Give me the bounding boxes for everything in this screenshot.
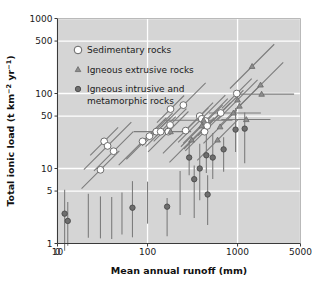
y-tick-label-100: 100 [35, 89, 52, 99]
x-tick-label-10: 10 [52, 247, 64, 257]
scatter-plot: 151050100500100001010010005000 Sedimenta… [0, 0, 322, 291]
x-tick-label-1000: 1000 [226, 247, 249, 257]
legend-label-1: Igneous extrusive rocks [87, 65, 194, 75]
y-tick-label-5: 5 [47, 186, 53, 196]
legend-label-0: Sedimentary rocks [87, 45, 172, 55]
legend-label-2: Igneous intrusive and [87, 84, 184, 94]
x-axis-title: Mean annual runoff (mm) [111, 265, 247, 276]
y-tick-label-10: 10 [41, 164, 53, 174]
legend-marker-circle-0 [74, 46, 82, 54]
y-tick-label-1000: 1000 [30, 14, 53, 24]
legend-label-2-line2: metamorphic rocks [87, 96, 174, 106]
x-tick-label-100: 100 [139, 247, 156, 257]
x-tick-label-5000: 5000 [289, 247, 312, 257]
chart-figure: 151050100500100001010010005000 Sedimenta… [0, 0, 322, 291]
y-tick-label-500: 500 [35, 36, 52, 46]
y-axis-title: Total ionic load (t km−2 yr−1) [5, 55, 16, 206]
legend-marker-circle-2 [75, 86, 80, 91]
y-tick-label-50: 50 [41, 111, 53, 121]
